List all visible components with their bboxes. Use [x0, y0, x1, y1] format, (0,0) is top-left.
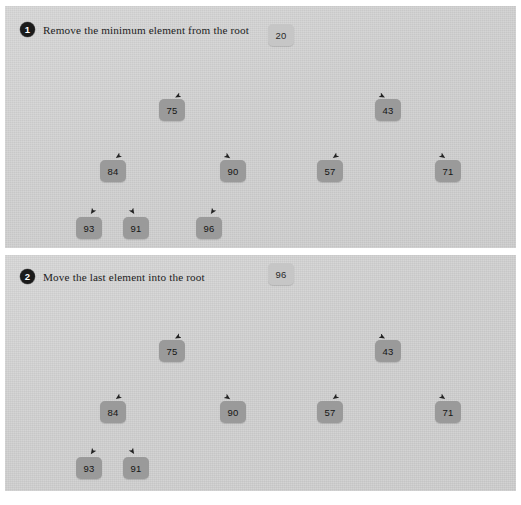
tree-node-label: 20 — [276, 30, 287, 41]
tree-node-label: 84 — [108, 407, 119, 418]
step-badge-2: 2 — [20, 269, 35, 284]
tree-node-91: 91 — [123, 217, 149, 239]
tree-node-label: 96 — [276, 269, 287, 280]
tree-node-57: 57 — [317, 401, 343, 423]
tree-node-43: 43 — [375, 99, 401, 121]
tree-node-label: 75 — [167, 105, 178, 116]
tree-edge-75-84 — [116, 119, 172, 158]
tree-edge-43-71 — [388, 119, 445, 158]
tree-node-43: 43 — [375, 340, 401, 362]
figure-canvas: 1 Remove the minimum element from the ro… — [0, 0, 521, 505]
tree-node-90: 90 — [220, 401, 246, 423]
tree-node-93: 93 — [76, 217, 102, 239]
tree-node-75: 75 — [159, 99, 185, 121]
step-caption-text-2: Move the last element into the root — [43, 271, 205, 283]
tree-node-93: 93 — [76, 457, 102, 479]
step-caption-text-1: Remove the minimum element from the root — [43, 24, 249, 36]
tree-node-label: 84 — [108, 166, 119, 177]
tree-node-90: 90 — [220, 160, 246, 182]
tree-node-label: 57 — [325, 166, 336, 177]
tree-edge-43-57 — [333, 119, 388, 158]
tree-edge-84-91 — [113, 180, 134, 214]
tree-node-84: 84 — [100, 160, 126, 182]
tree-edge-75-90 — [172, 119, 230, 158]
tree-node-label: 90 — [228, 166, 239, 177]
tree-node-label: 91 — [131, 463, 142, 474]
tree-edge-84-93 — [91, 180, 113, 214]
step-caption-1: 1 Remove the minimum element from the ro… — [20, 22, 249, 37]
tree-node-label: 75 — [167, 346, 178, 357]
tree-node-label: 43 — [383, 105, 394, 116]
tree-node-84: 84 — [100, 401, 126, 423]
tree-edges-2 — [5, 255, 516, 491]
tree-node-71: 71 — [435, 401, 461, 423]
tree-node-label: 96 — [204, 223, 215, 234]
tree-edges-1 — [5, 6, 516, 248]
tree-node-20: 20 — [268, 24, 294, 46]
tree-node-label: 43 — [383, 346, 394, 357]
tree-node-96: 96 — [196, 217, 222, 239]
tree-node-91: 91 — [123, 457, 149, 479]
tree-node-57: 57 — [317, 160, 343, 182]
step-panel-2: 2 Move the last element into the root 96… — [5, 255, 516, 491]
tree-node-label: 91 — [131, 223, 142, 234]
tree-edge-96-75 — [176, 283, 282, 338]
step-panel-1: 1 Remove the minimum element from the ro… — [5, 6, 516, 248]
tree-node-label: 57 — [325, 407, 336, 418]
tree-edge-20-43 — [281, 44, 384, 97]
tree-edge-75-84 — [116, 360, 172, 399]
tree-node-96: 96 — [268, 263, 294, 285]
tree-node-label: 90 — [228, 407, 239, 418]
tree-edge-75-90 — [172, 360, 230, 399]
tree-edge-96-43 — [281, 283, 385, 338]
tree-edge-84-93 — [91, 421, 113, 454]
tree-edge-84-91 — [113, 421, 134, 454]
tree-edge-43-57 — [333, 360, 388, 399]
tree-node-label: 93 — [84, 463, 95, 474]
step-caption-2: 2 Move the last element into the root — [20, 269, 205, 284]
tree-edge-20-75 — [176, 44, 281, 97]
tree-node-label: 71 — [443, 407, 454, 418]
tree-node-label: 93 — [84, 223, 95, 234]
tree-edge-43-71 — [388, 360, 445, 399]
tree-node-75: 75 — [159, 340, 185, 362]
tree-node-71: 71 — [435, 160, 461, 182]
tree-node-label: 71 — [443, 166, 454, 177]
step-badge-1: 1 — [20, 22, 35, 37]
tree-edge-90-96 — [211, 180, 233, 214]
